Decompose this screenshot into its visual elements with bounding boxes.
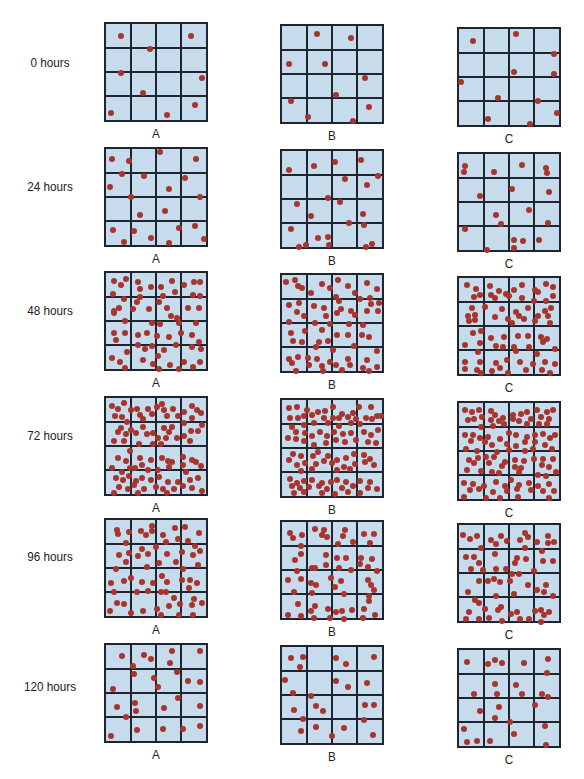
cell-dot <box>298 453 304 459</box>
cell-dot <box>462 226 468 232</box>
cell-dot <box>543 298 549 304</box>
cell-dot <box>532 702 538 708</box>
grid-line-vertical <box>356 26 358 122</box>
cell-dot <box>538 619 544 625</box>
cell-dot <box>371 654 377 660</box>
cell-dot <box>543 281 549 287</box>
cell-dot <box>543 742 549 748</box>
cell-dot <box>362 459 368 465</box>
cell-dot <box>460 532 466 538</box>
cell-dot <box>491 169 497 175</box>
cell-dot <box>169 459 175 465</box>
cell-dot <box>470 38 476 44</box>
cell-dot <box>190 552 196 558</box>
cell-dot <box>139 462 145 468</box>
cell-dot <box>172 289 178 295</box>
cell-dot <box>366 334 372 340</box>
counting-grid-c <box>457 152 561 252</box>
cell-dot <box>195 475 201 481</box>
cell-dot <box>130 306 136 312</box>
cell-dot <box>535 472 541 478</box>
cell-dot <box>548 305 554 311</box>
cell-dot <box>313 703 319 709</box>
cell-dot <box>293 429 299 435</box>
cell-dot <box>535 289 541 295</box>
cell-dot <box>155 467 161 473</box>
cell-dot <box>306 362 312 368</box>
row-label-time: 0 hours <box>5 55 95 70</box>
cell-dot <box>361 606 367 612</box>
cell-dot <box>362 75 368 81</box>
cell-dot <box>176 366 182 372</box>
cell-dot <box>378 413 384 419</box>
cell-dot <box>322 408 328 414</box>
cell-dot <box>135 553 141 559</box>
cell-dot <box>464 739 470 745</box>
cell-dot <box>164 413 170 419</box>
cell-dot <box>164 490 170 496</box>
cell-dot <box>343 479 349 485</box>
cell-dot <box>464 467 470 473</box>
cell-dot <box>291 707 297 713</box>
cell-dot <box>470 481 476 487</box>
cell-dot <box>525 582 531 588</box>
cell-dot <box>197 279 203 285</box>
cell-dot <box>347 362 353 368</box>
cell-dot <box>357 296 363 302</box>
cell-dot <box>289 360 295 366</box>
cell-dot <box>148 284 154 290</box>
cell-dot <box>315 235 321 241</box>
grid-label-c: C <box>491 627 527 642</box>
cell-dot <box>171 595 177 601</box>
cell-dot <box>126 473 132 479</box>
cell-dot <box>334 477 340 483</box>
cell-dot <box>348 35 354 41</box>
cell-dot <box>108 110 114 116</box>
cell-dot <box>199 75 205 81</box>
cell-dot <box>145 588 151 594</box>
cell-dot <box>476 407 482 413</box>
cell-dot <box>367 479 373 485</box>
cell-dot <box>375 173 381 179</box>
cell-dot <box>189 344 195 350</box>
cell-dot <box>131 671 137 677</box>
cell-dot <box>545 694 551 700</box>
cell-dot <box>512 560 518 566</box>
cell-dot <box>471 554 477 560</box>
cell-dot <box>178 330 184 336</box>
cell-dot <box>287 476 293 482</box>
cell-dot <box>309 433 315 439</box>
cell-dot <box>298 543 304 549</box>
cell-dot <box>173 342 179 348</box>
cell-dot <box>181 433 187 439</box>
grid-label-b: B <box>314 502 350 517</box>
cell-dot <box>193 320 199 326</box>
cell-dot <box>286 167 292 173</box>
cell-dot <box>499 618 505 624</box>
cell-dot <box>333 362 339 368</box>
cell-dot <box>295 601 301 607</box>
cell-dot <box>109 156 115 162</box>
cell-dot <box>145 467 151 473</box>
cell-dot <box>370 732 376 738</box>
cell-dot <box>121 239 127 245</box>
cell-dot <box>137 286 143 292</box>
cell-dot <box>175 695 181 701</box>
cell-dot <box>462 366 468 372</box>
cell-dot <box>514 609 520 615</box>
cell-dot <box>505 370 511 376</box>
cell-dot <box>361 429 367 435</box>
cell-dot <box>192 223 198 229</box>
cell-dot <box>525 333 531 339</box>
cell-dot <box>148 477 154 483</box>
cell-dot <box>458 79 464 85</box>
cell-dot <box>476 486 482 492</box>
cell-dot <box>374 568 380 574</box>
cell-dot <box>515 494 521 500</box>
cell-dot <box>469 305 475 311</box>
cell-dot <box>308 290 314 296</box>
counting-grid-a <box>104 271 208 371</box>
grid-line-horizontal <box>459 349 559 351</box>
cell-dot <box>461 169 467 175</box>
cell-dot <box>135 342 141 348</box>
